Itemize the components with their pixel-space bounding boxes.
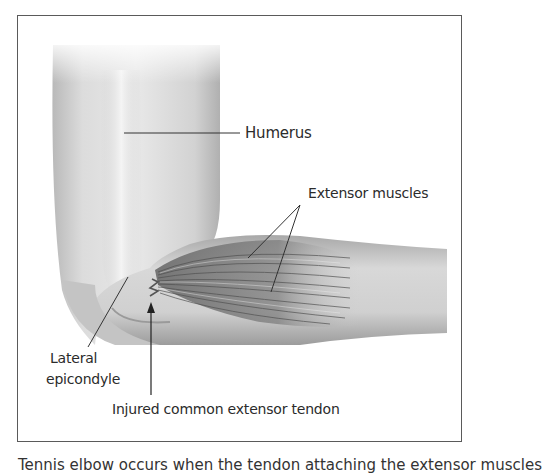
- lateral-epicondyle-label-line1: Lateral: [50, 350, 97, 367]
- figure-caption: Tennis elbow occurs when the tendon atta…: [18, 456, 542, 474]
- lateral-epicondyle-label-line2: epicondyle: [46, 371, 120, 388]
- humerus-bone: [100, 70, 143, 290]
- extensor-muscles-label: Extensor muscles: [308, 185, 428, 202]
- injured-tendon-label: Injured common extensor tendon: [112, 401, 340, 418]
- humerus-label: Humerus: [245, 125, 312, 142]
